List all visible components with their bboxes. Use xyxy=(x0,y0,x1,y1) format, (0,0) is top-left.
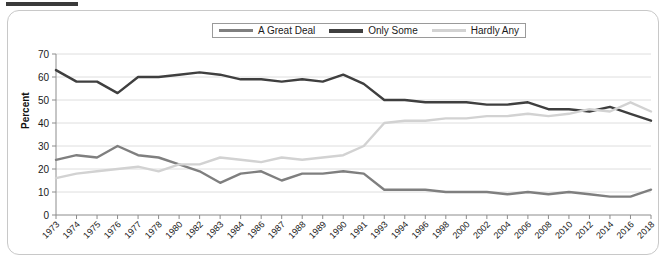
x-tick-label: 1986 xyxy=(245,219,266,240)
x-tick-label: 1984 xyxy=(225,219,246,240)
plot-area: 0102030405060701973197419751976197719781… xyxy=(8,11,660,256)
x-tick-label: 1975 xyxy=(81,219,102,240)
x-tick-label: 1973 xyxy=(40,219,61,240)
x-tick-label: 1993 xyxy=(368,219,389,240)
chart-card: A Great Deal Only Some Hardly Any Percen… xyxy=(7,10,659,255)
y-tick-label: 0 xyxy=(43,210,49,221)
x-tick-label: 1982 xyxy=(184,219,205,240)
x-tick-label: 1989 xyxy=(307,219,328,240)
y-tick-label: 40 xyxy=(38,118,50,129)
y-tick-label: 30 xyxy=(38,141,50,152)
x-tick-label: 2010 xyxy=(553,219,574,240)
x-tick-label: 2014 xyxy=(594,219,615,240)
series-line-hardly-any xyxy=(56,102,651,178)
x-tick-label: 1991 xyxy=(348,219,369,240)
series-line-a-great-deal xyxy=(56,146,651,197)
x-tick-label: 2012 xyxy=(574,219,595,240)
x-tick-label: 2008 xyxy=(533,219,554,240)
x-tick-label: 2002 xyxy=(471,219,492,240)
x-tick-label: 1976 xyxy=(102,219,123,240)
x-tick-label: 2004 xyxy=(492,219,513,240)
x-tick-label: 1990 xyxy=(327,219,348,240)
y-tick-label: 20 xyxy=(38,164,50,175)
x-tick-label: 1988 xyxy=(286,219,307,240)
x-tick-label: 1994 xyxy=(389,219,410,240)
x-tick-label: 1983 xyxy=(204,219,225,240)
x-tick-label: 1987 xyxy=(266,219,287,240)
x-tick-label: 2018 xyxy=(635,219,656,240)
x-tick-label: 2000 xyxy=(451,219,472,240)
y-tick-label: 60 xyxy=(38,72,50,83)
x-tick-label: 1996 xyxy=(409,219,430,240)
x-tick-label: 1980 xyxy=(163,219,184,240)
series-line-only-some xyxy=(56,70,651,121)
y-tick-label: 70 xyxy=(38,49,50,60)
top-left-marker-bar xyxy=(6,2,78,6)
x-tick-label: 1978 xyxy=(143,219,164,240)
line-chart-svg: 0102030405060701973197419751976197719781… xyxy=(8,11,660,256)
x-tick-label: 2016 xyxy=(615,219,636,240)
x-tick-label: 2006 xyxy=(512,219,533,240)
y-tick-label: 10 xyxy=(38,187,50,198)
y-tick-label: 50 xyxy=(38,95,50,106)
x-tick-label: 1974 xyxy=(61,219,82,240)
x-tick-label: 1977 xyxy=(122,219,143,240)
x-tick-label: 1998 xyxy=(430,219,451,240)
